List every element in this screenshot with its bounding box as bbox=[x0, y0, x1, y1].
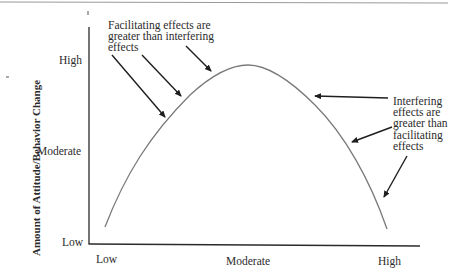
arrow-right-2 bbox=[352, 127, 392, 142]
top-rule bbox=[0, 2, 448, 3]
x-tick-high: High bbox=[378, 256, 401, 267]
x-axis bbox=[89, 244, 421, 246]
x-tick-moderate: Moderate bbox=[226, 256, 270, 267]
annotation-line: effects bbox=[108, 42, 214, 53]
diagram: Amount of Attitude/Behavior Change High … bbox=[0, 0, 455, 277]
y-axis-title: Amount of Attitude/Behavior Change bbox=[30, 80, 42, 256]
inverted-u-curve bbox=[105, 65, 387, 229]
annotation-line: effects bbox=[393, 141, 448, 152]
y-tick-high: High bbox=[59, 55, 82, 66]
arrow-left-1 bbox=[112, 55, 165, 117]
annotation-interfering: Interfering effects are greater than fac… bbox=[393, 96, 448, 152]
x-tick-low: Low bbox=[96, 254, 117, 265]
y-tick-moderate: Moderate bbox=[37, 146, 81, 157]
annotation-facilitating: Facilitating effects are greater than in… bbox=[108, 20, 214, 54]
arrow-right-3 bbox=[384, 156, 407, 197]
arrow-left-2 bbox=[142, 55, 181, 96]
arrow-right-1 bbox=[315, 96, 388, 98]
y-tick-low: Low bbox=[62, 237, 83, 248]
annotation-line: greater than bbox=[393, 118, 448, 129]
